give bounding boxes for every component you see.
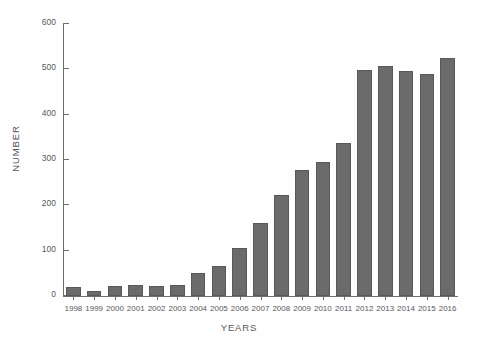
y-axis-title: NUMBER — [2, 0, 28, 296]
y-axis-tick-label: 300 — [42, 153, 56, 163]
bar — [316, 162, 331, 296]
y-axis-tick-label: 0 — [51, 289, 56, 299]
bar — [66, 287, 81, 296]
y-axis-tick: 100 — [63, 250, 69, 251]
bar — [378, 66, 393, 296]
x-axis-tick — [261, 296, 262, 300]
bar-chart: NUMBER 0100200300400500600 1998199920002… — [0, 0, 478, 346]
y-axis-tick-label: 600 — [42, 17, 56, 27]
bar — [108, 286, 123, 296]
bar — [191, 273, 206, 296]
bar — [232, 248, 247, 296]
x-axis-tick — [364, 296, 365, 300]
bar — [420, 74, 435, 296]
x-axis-tick — [323, 296, 324, 300]
x-axis-tick — [94, 296, 95, 300]
x-axis-title-text: YEARS — [221, 322, 258, 333]
bar — [274, 195, 289, 296]
y-axis-title-text: NUMBER — [10, 125, 21, 172]
bar — [128, 285, 143, 296]
x-axis-tick — [240, 296, 241, 300]
x-axis-tick-label: 2014 — [397, 304, 415, 313]
x-axis-tick-label: 2015 — [418, 304, 436, 313]
y-axis-tick: 500 — [63, 68, 69, 69]
x-axis-title: YEARS — [0, 322, 478, 333]
x-axis-tick — [219, 296, 220, 300]
x-axis-tick-label: 2001 — [127, 304, 145, 313]
y-axis-tick-label: 100 — [42, 244, 56, 254]
x-axis-tick — [281, 296, 282, 300]
x-axis-tick — [427, 296, 428, 300]
y-axis-tick-label: 200 — [42, 198, 56, 208]
x-axis-tick — [385, 296, 386, 300]
x-axis-tick — [177, 296, 178, 300]
x-axis-tick — [198, 296, 199, 300]
bar — [357, 70, 372, 296]
x-axis-tick — [115, 296, 116, 300]
x-axis-tick-label: 2007 — [252, 304, 270, 313]
x-axis-tick-label: 2011 — [335, 304, 352, 313]
x-axis-tick-label: 2009 — [293, 304, 311, 313]
bar — [212, 266, 227, 296]
x-axis-tick — [406, 296, 407, 300]
y-axis-tick: 400 — [63, 114, 69, 115]
x-axis-tick-label: 2005 — [210, 304, 228, 313]
y-axis-tick: 300 — [63, 159, 69, 160]
x-axis-tick-label: 2002 — [148, 304, 166, 313]
x-axis-tick — [302, 296, 303, 300]
x-axis-tick — [136, 296, 137, 300]
bar — [170, 285, 185, 296]
x-axis-tick — [344, 296, 345, 300]
x-axis-tick-label: 2000 — [106, 304, 124, 313]
bar — [149, 286, 164, 296]
bar — [295, 170, 310, 296]
x-axis-tick — [73, 296, 74, 300]
x-axis-tick-label: 2006 — [231, 304, 249, 313]
y-axis-tick-label: 400 — [42, 108, 56, 118]
x-axis-tick-label: 2013 — [376, 304, 394, 313]
y-axis-tick: 200 — [63, 204, 69, 205]
y-axis-tick-label: 500 — [42, 62, 56, 72]
y-axis-line — [63, 24, 64, 296]
x-axis-tick-label: 2016 — [439, 304, 457, 313]
x-axis-tick-label: 2003 — [168, 304, 186, 313]
bar — [336, 143, 351, 296]
x-axis-tick-label: 2012 — [356, 304, 374, 313]
bar — [253, 223, 268, 296]
bar — [399, 71, 414, 296]
x-axis-tick-label: 1999 — [85, 304, 103, 313]
x-axis-tick-label: 2010 — [314, 304, 332, 313]
x-axis-tick-label: 1998 — [64, 304, 82, 313]
x-axis-tick — [157, 296, 158, 300]
x-axis-tick — [448, 296, 449, 300]
x-axis-tick-label: 2004 — [189, 304, 207, 313]
plot-area: 0100200300400500600 19981999200020012002… — [63, 24, 458, 296]
y-axis-tick: 600 — [63, 23, 69, 24]
x-axis-tick-label: 2008 — [272, 304, 290, 313]
bar — [440, 58, 455, 296]
